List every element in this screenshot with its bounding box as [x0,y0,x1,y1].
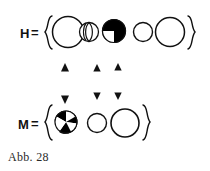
row-m-open-brace [45,105,52,140]
row-m-equals: = [31,116,39,131]
row-h-close-brace [188,16,195,49]
figure-caption: Abb. 28 [8,150,49,165]
row-h-label: H [20,26,29,41]
row-h-equals: = [31,25,39,40]
row-m: M = [18,105,150,140]
m-element-circle-pinwheel [54,111,77,134]
row-m-label: M [18,117,29,132]
h-element-circle-large-open [53,17,84,48]
double-headed-vertical-arrow-3 [114,63,121,100]
row-h: H = [20,16,195,49]
figure-abb-28: H = [0,0,210,171]
row-m-close-brace [143,105,150,140]
h-element-circle-large-open-2 [156,18,185,47]
double-headed-vertical-arrow-1 [61,63,69,104]
m-element-circle-small-open [88,114,107,133]
h-element-circle-quadrant-checker [103,20,126,43]
h-element-circle-small-open [134,23,153,42]
row-h-open-brace [45,16,52,49]
m-element-circle-large-open [111,109,139,137]
figure-canvas: H = [0,0,210,171]
h-element-circle-segmented-lens [80,23,99,42]
double-headed-vertical-arrow-2 [93,64,100,100]
arrow-group [61,63,122,104]
